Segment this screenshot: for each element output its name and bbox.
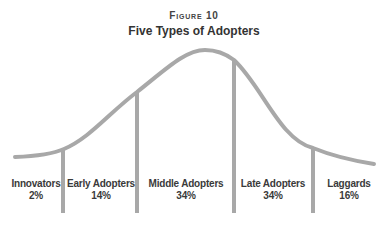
segment-label: Early Adopters [67,178,135,190]
segment-percent: 34% [241,190,305,202]
segment-label: Middle Adopters [149,178,224,190]
segment-innovators: Innovators 2% [11,178,60,202]
segment-percent: 16% [327,190,370,202]
bell-curve [15,50,374,164]
segment-early-adopters: Early Adopters 14% [67,178,135,202]
segment-percent: 14% [67,190,135,202]
segment-label: Laggards [327,178,370,190]
segment-percent: 34% [149,190,224,202]
segment-late-adopters: Late Adopters 34% [241,178,305,202]
segment-laggards: Laggards 16% [327,178,370,202]
segment-percent: 2% [11,190,60,202]
segment-middle-adopters: Middle Adopters 34% [149,178,224,202]
segment-label: Innovators [11,178,60,190]
segment-label: Late Adopters [241,178,305,190]
